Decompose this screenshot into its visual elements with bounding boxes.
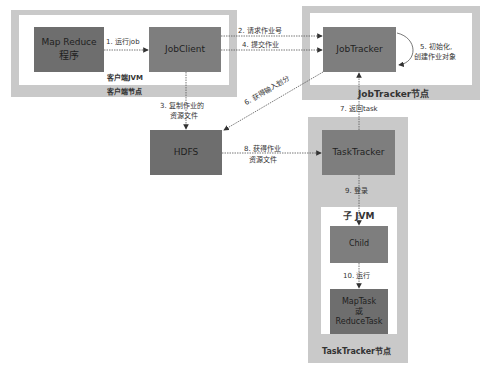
edge-3-label-line2: 资源文件 [170,112,198,121]
edge-7-label: 7. 返回task [340,105,378,114]
edge-5-label-line1: 5. 初始化, [420,43,452,52]
edge-9-label: 9. 登录 [345,187,368,196]
edge-8-label-line1: 8. 获得作业 [244,145,281,154]
edge-4-label: 4. 提交作业 [242,41,279,50]
edge-2-label: 2. 请求作业号 [238,27,282,36]
edge-3-label-line1: 3. 复制作业的 [160,102,204,111]
edge-5-label-line2: 创建作业对象 [414,53,456,62]
edge-8-label-line2: 资源文件 [249,156,277,165]
edge-1-label: 1. 运行job [106,38,140,47]
edge-10-label: 10. 运行 [343,272,370,281]
